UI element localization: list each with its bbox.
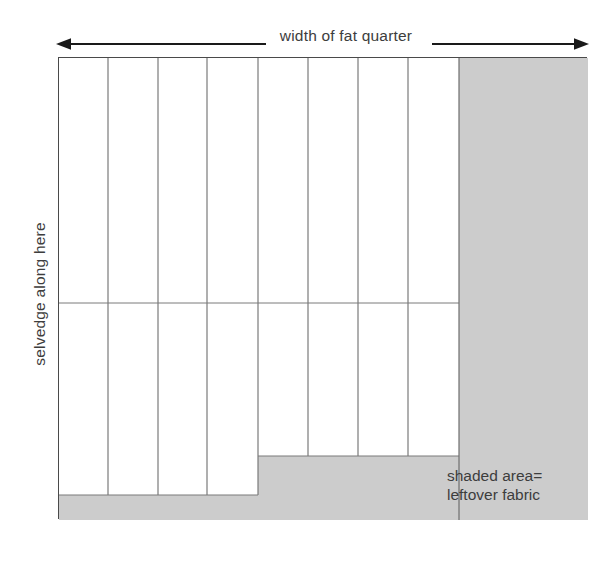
- selvedge-along-here-label: selvedge along here: [31, 184, 49, 404]
- right-arrow-icon: [432, 30, 590, 58]
- fabric-strip-layout: [59, 58, 588, 520]
- legend-line-1: shaded area=: [447, 466, 542, 485]
- leftover-fabric-legend: shaded area= leftover fabric: [447, 466, 542, 504]
- strip-divider-lines: [108, 58, 408, 495]
- leftover-shaded-region: [59, 58, 588, 520]
- left-arrow-icon: [54, 30, 266, 58]
- legend-line-2: leftover fabric: [447, 485, 542, 504]
- width-dimension-row: width of fat quarter: [0, 0, 608, 57]
- fabric-rectangle: [58, 57, 587, 519]
- width-of-fat-quarter-label: width of fat quarter: [258, 27, 434, 45]
- fat-quarter-cutting-diagram: width of fat quarter selvedge along here: [0, 0, 608, 569]
